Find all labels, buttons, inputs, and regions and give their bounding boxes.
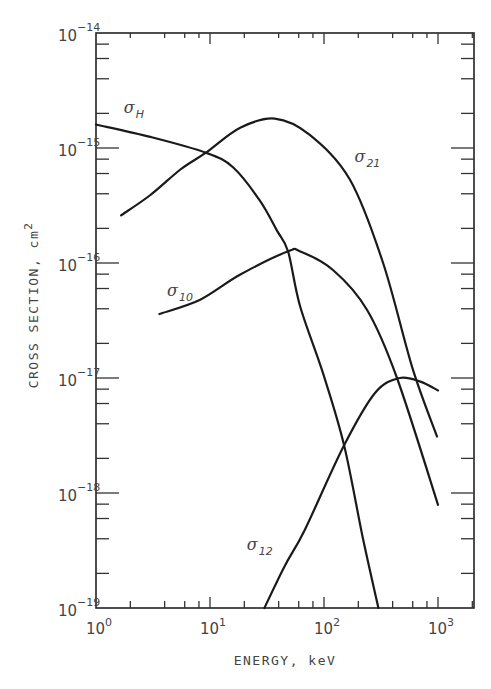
y-axis-title: CROSS SECTION, cm2 — [22, 222, 41, 389]
y-tick-label: 10−18 — [58, 481, 100, 505]
y-tick-label: 10−17 — [58, 366, 100, 390]
plot-frame — [96, 33, 474, 608]
x-tick-label: 101 — [200, 616, 226, 638]
x-tick-label: 100 — [86, 616, 112, 638]
curve-sigma-12 — [264, 377, 438, 608]
data-curves — [96, 118, 438, 608]
series-label-sigma-10: σ10 — [167, 281, 193, 304]
plot-border — [96, 33, 474, 608]
series-label-sigma-21: σ21 — [354, 147, 380, 170]
curve-sigma-21 — [121, 118, 437, 436]
axis-ticks — [96, 33, 474, 608]
curve-sigma-10 — [159, 249, 438, 505]
y-tick-label: 10−19 — [58, 596, 100, 620]
y-tick-label: 10−16 — [58, 251, 100, 275]
x-tick-label: 103 — [428, 616, 454, 638]
y-tick-label: 10−15 — [58, 136, 100, 160]
x-axis-title: ENERGY, keV — [234, 653, 337, 668]
curve-sigma-h — [96, 125, 378, 609]
y-tick-label: 10−14 — [58, 21, 100, 45]
series-label-sigma-h: σH — [124, 98, 144, 121]
x-tick-label: 102 — [314, 616, 340, 638]
cross-section-chart: 10010110210310−1410−1510−1610−1710−1810−… — [0, 0, 491, 689]
series-label-sigma-12: σ12 — [247, 535, 273, 558]
